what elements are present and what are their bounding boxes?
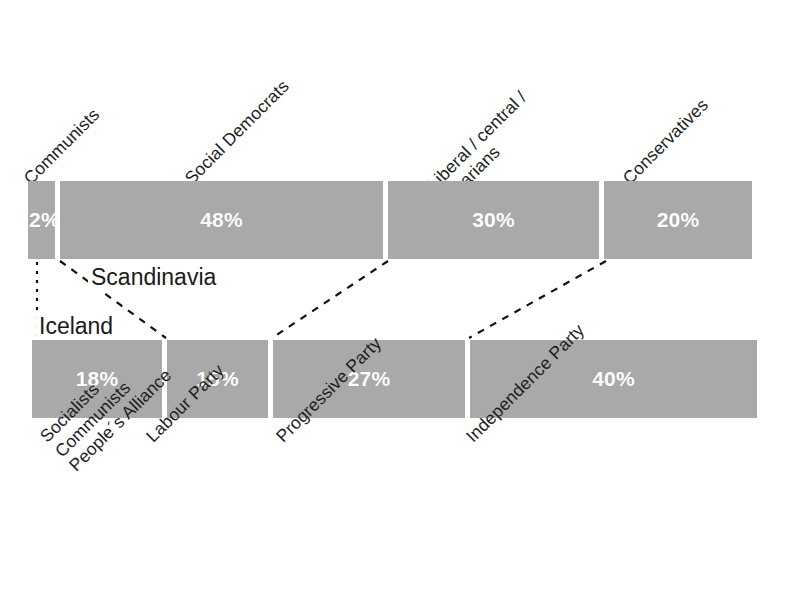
chart-canvas: Communists Social Democrats Liberal / ce… xyxy=(0,0,791,605)
label-text: Social Democrats xyxy=(181,76,293,188)
top-category-label-communists: Communists xyxy=(20,104,104,188)
top-category-label-social-democrats: Social Democrats xyxy=(181,76,293,188)
bar-scandinavia[interactable]: 2% 48% 30% 20% xyxy=(28,181,757,259)
segment-value: 20% xyxy=(657,208,700,232)
segment-value: 2% xyxy=(29,208,60,232)
connector-lines xyxy=(0,0,791,605)
segment-scandinavia-liberal-agrarians[interactable]: 30% xyxy=(388,181,599,259)
group-label-text: Iceland xyxy=(39,313,113,339)
top-category-label-conservatives: Conservatives xyxy=(619,95,713,189)
label-text: Communists xyxy=(20,104,104,188)
group-label-scandinavia: Scandinavia xyxy=(88,264,219,291)
label-text: Conservatives xyxy=(619,95,712,188)
segment-value: 48% xyxy=(200,208,243,232)
connector-social-democrats-to-labour xyxy=(272,261,388,338)
segment-scandinavia-conservatives[interactable]: 20% xyxy=(604,181,752,259)
segment-value: 30% xyxy=(472,208,515,232)
segment-scandinavia-social-democrats[interactable]: 48% xyxy=(60,181,383,259)
segment-scandinavia-communists[interactable]: 2% xyxy=(28,181,55,259)
segment-value: 40% xyxy=(592,367,635,391)
group-label-iceland: Iceland xyxy=(36,313,116,340)
connector-liberal-to-progressive xyxy=(469,261,606,338)
group-label-text: Scandinavia xyxy=(91,264,216,290)
